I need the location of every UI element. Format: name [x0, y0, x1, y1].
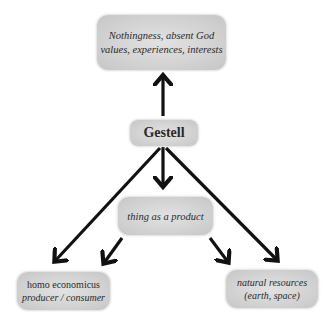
- node-homo-economicus: homo economicus producer / consumer: [17, 272, 110, 310]
- arrow-thing-to-homo: [104, 238, 122, 263]
- node-gestell: Gestell: [130, 120, 198, 146]
- node-thing-label: thing as a product: [127, 211, 203, 222]
- node-nothingness-line-1: Nothingness, absent God: [109, 29, 214, 43]
- node-natural-line-1: natural resources: [237, 276, 307, 289]
- node-nothingness: Nothingness, absent God values, experien…: [97, 15, 226, 70]
- node-natural-resources: natural resources (earth, space): [226, 270, 318, 308]
- node-natural-line-2: (earth, space): [244, 289, 300, 302]
- node-homo-line-1: homo economicus: [27, 278, 100, 291]
- arrow-thing-to-natural: [210, 238, 228, 262]
- node-gestell-label: Gestell: [143, 125, 184, 141]
- node-homo-line-2: producer / consumer: [22, 291, 105, 304]
- node-thing-as-product: thing as a product: [118, 197, 213, 235]
- node-nothingness-line-2: values, experiences, interests: [100, 43, 222, 57]
